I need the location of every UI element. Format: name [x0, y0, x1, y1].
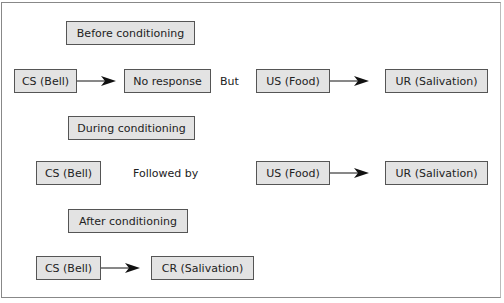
before-cs-bell-box: CS (Bell) [14, 69, 77, 93]
arrow-icon [330, 168, 370, 178]
diagram-frame [1, 2, 501, 298]
after-cr-salivation-box: CR (Salivation) [151, 256, 254, 280]
before-no-response-box: No response [124, 69, 211, 93]
after-cs-bell-box: CS (Bell) [36, 256, 101, 280]
arrow-icon [101, 263, 141, 273]
before-us-food-box: US (Food) [256, 69, 330, 93]
but-label: But [220, 75, 239, 88]
after-conditioning-title: After conditioning [68, 209, 188, 233]
during-conditioning-title: During conditioning [68, 116, 195, 140]
before-conditioning-title: Before conditioning [66, 21, 195, 45]
during-us-food-box: US (Food) [256, 161, 330, 185]
before-ur-salivation-box: UR (Salivation) [385, 69, 488, 93]
followed-by-label: Followed by [133, 167, 198, 180]
arrow-icon [77, 76, 117, 86]
arrow-icon [330, 76, 370, 86]
during-cs-bell-box: CS (Bell) [36, 161, 101, 185]
during-ur-salivation-box: UR (Salivation) [385, 161, 488, 185]
